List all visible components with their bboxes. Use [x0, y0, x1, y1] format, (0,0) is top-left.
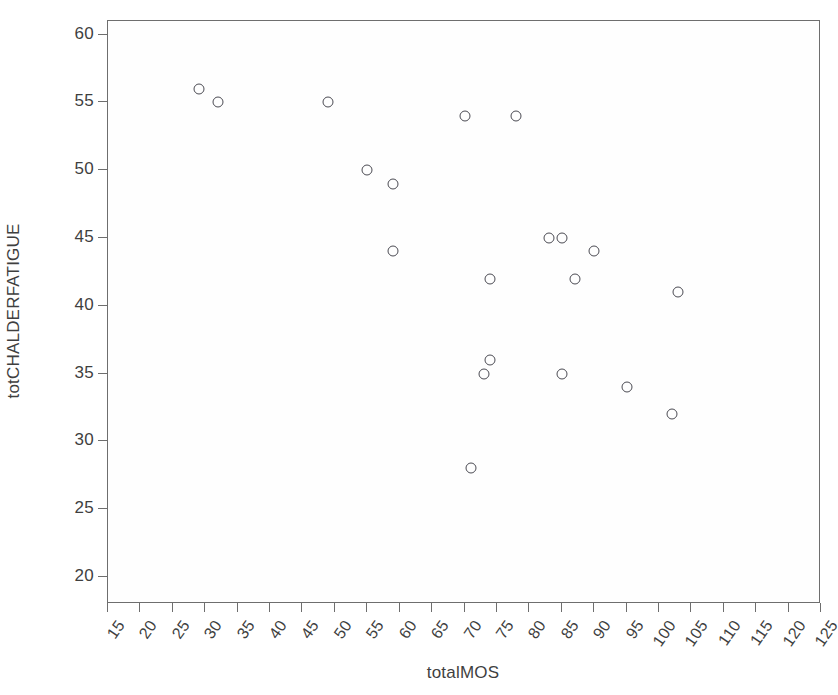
data-point [666, 409, 677, 420]
x-axis-tick-label: 105 [682, 617, 713, 650]
data-points-layer [108, 21, 821, 604]
x-axis-tick [496, 603, 497, 612]
x-axis-tick [399, 603, 400, 612]
x-axis-tick [658, 603, 659, 612]
x-axis-tick-label: 120 [779, 617, 810, 650]
y-axis-tick-label: 20 [74, 566, 94, 586]
x-axis-tick-label: 100 [649, 617, 680, 650]
x-axis-tick-label: 50 [330, 617, 355, 642]
y-axis-tick-label: 50 [74, 159, 94, 179]
x-axis-tick-label: 60 [395, 617, 420, 642]
y-axis-tick [98, 508, 107, 509]
data-point [193, 83, 204, 94]
x-axis-tick [139, 603, 140, 612]
x-axis-title: totalMOS [427, 663, 499, 683]
data-point [621, 382, 632, 393]
x-axis-tick-label: 80 [525, 617, 550, 642]
x-axis-tick [172, 603, 173, 612]
scatter-plot-figure: 202530354045505560 totCHALDERFATIGUE 152… [0, 0, 838, 695]
x-axis-tick [528, 603, 529, 612]
data-point [556, 368, 567, 379]
x-axis-tick [820, 603, 821, 612]
x-axis-tick-label: 75 [492, 617, 517, 642]
x-axis-tick [431, 603, 432, 612]
data-point [673, 287, 684, 298]
x-axis-tick-label: 20 [136, 617, 161, 642]
y-axis-tick [98, 169, 107, 170]
x-axis-tick-label: 45 [298, 617, 323, 642]
data-point [388, 246, 399, 257]
y-axis-tick [98, 440, 107, 441]
x-axis-tick [755, 603, 756, 612]
x-axis-tick-label: 35 [233, 617, 258, 642]
data-point [589, 246, 600, 257]
x-axis-tick-label: 25 [168, 617, 193, 642]
x-axis-tick-label: 115 [747, 617, 777, 649]
x-axis-tick [237, 603, 238, 612]
y-axis-tick-label: 30 [74, 430, 94, 450]
x-axis-tick-label: 110 [715, 617, 745, 649]
y-axis-title: totCHALDERFATIGUE [4, 223, 24, 398]
y-axis-tick-label: 40 [74, 295, 94, 315]
x-axis-tick [107, 603, 108, 612]
x-axis-tick [334, 603, 335, 612]
data-point [323, 97, 334, 108]
y-axis-tick [98, 576, 107, 577]
data-point [478, 368, 489, 379]
x-axis-tick-label: 90 [590, 617, 615, 642]
x-axis-tick-label: 55 [363, 617, 388, 642]
y-axis-tick [98, 305, 107, 306]
x-axis-tick-label: 70 [460, 617, 485, 642]
x-axis-tick [723, 603, 724, 612]
x-axis-tick-label: 85 [557, 617, 582, 642]
data-point [511, 110, 522, 121]
y-axis-tick-label: 45 [74, 227, 94, 247]
y-axis-tick-label: 35 [74, 363, 94, 383]
y-axis-tick-label: 60 [74, 24, 94, 44]
y-axis-tick [98, 101, 107, 102]
data-point [362, 165, 373, 176]
x-axis-tick [788, 603, 789, 612]
x-axis-tick [204, 603, 205, 612]
x-axis-tick [593, 603, 594, 612]
data-point [485, 273, 496, 284]
x-axis-tick-label: 125 [811, 617, 838, 650]
x-axis-tick [301, 603, 302, 612]
data-point [459, 110, 470, 121]
x-axis-tick [269, 603, 270, 612]
x-axis-tick-label: 95 [622, 617, 647, 642]
data-point [556, 232, 567, 243]
y-axis-tick-label: 55 [74, 91, 94, 111]
data-point [485, 354, 496, 365]
data-point [543, 232, 554, 243]
y-axis-tick [98, 373, 107, 374]
x-axis-tick-label: 40 [265, 617, 290, 642]
x-axis-tick [626, 603, 627, 612]
x-axis-tick [366, 603, 367, 612]
y-axis-tick [98, 237, 107, 238]
data-point [569, 273, 580, 284]
data-point [388, 178, 399, 189]
x-axis-tick [561, 603, 562, 612]
plot-area [107, 20, 820, 603]
y-axis-tick [98, 34, 107, 35]
x-axis-tick-label: 30 [201, 617, 226, 642]
x-axis-tick-label: 15 [103, 617, 128, 642]
x-axis-tick-label: 65 [428, 617, 453, 642]
data-point [213, 97, 224, 108]
data-point [465, 463, 476, 474]
x-axis-tick [464, 603, 465, 612]
y-axis-tick-label: 25 [74, 498, 94, 518]
x-axis-tick [690, 603, 691, 612]
